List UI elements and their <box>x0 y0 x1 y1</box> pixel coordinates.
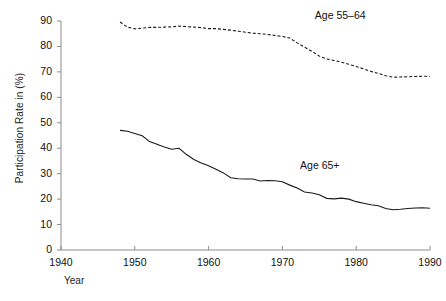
y-tick-marks <box>57 21 61 250</box>
series-path-age-55-64 <box>120 22 430 77</box>
y-tick-label: 80 <box>26 39 52 51</box>
x-tick-label: 1990 <box>408 256 446 268</box>
series-paths <box>120 22 430 210</box>
y-tick-label: 90 <box>26 14 52 26</box>
series-path-age-65-plus <box>120 130 430 209</box>
x-axis-title: Year <box>64 275 84 286</box>
series-annotation-age-55-64: Age 55–64 <box>315 9 366 21</box>
y-tick-label: 50 <box>26 116 52 128</box>
x-tick-label: 1950 <box>113 256 157 268</box>
y-tick-label: 70 <box>26 65 52 77</box>
series-annotation-age-65-plus: Age 65+ <box>300 159 339 171</box>
y-tick-label: 10 <box>26 218 52 230</box>
y-tick-label: 20 <box>26 192 52 204</box>
y-tick-label: 30 <box>26 167 52 179</box>
x-tick-label: 1940 <box>39 256 83 268</box>
x-tick-label: 1980 <box>334 256 378 268</box>
line-chart: Participation Rate in (%) Year 010203040… <box>0 0 446 301</box>
x-tick-marks <box>61 246 430 250</box>
x-tick-label: 1970 <box>260 256 304 268</box>
y-tick-label: 40 <box>26 141 52 153</box>
y-tick-label: 60 <box>26 90 52 102</box>
x-tick-label: 1960 <box>187 256 231 268</box>
axes <box>57 21 430 250</box>
y-tick-label: 0 <box>26 243 52 255</box>
